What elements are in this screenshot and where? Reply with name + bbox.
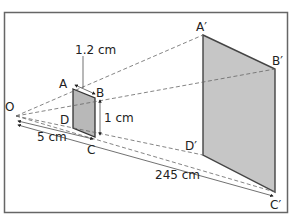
label-A-prime: A′ — [196, 20, 207, 34]
label-C: C — [87, 143, 95, 157]
label-D: D — [60, 113, 69, 127]
label-1-2-cm: 1.2 cm — [75, 43, 116, 57]
label-1-cm: 1 cm — [104, 111, 134, 125]
label-O: O — [5, 100, 14, 114]
label-C-prime: C′ — [270, 198, 281, 212]
projection-diagram: 1.2 cm A B O D 1 cm 5 cm C A′ B′ D′ 245 … — [0, 0, 293, 218]
label-B-prime: B′ — [272, 54, 283, 68]
label-A: A — [59, 77, 68, 91]
label-D-prime: D′ — [185, 139, 197, 153]
label-B: B — [96, 86, 104, 100]
label-245-cm: 245 cm — [155, 168, 200, 182]
small-quadrilateral — [73, 89, 95, 137]
label-5-cm: 5 cm — [37, 130, 67, 144]
